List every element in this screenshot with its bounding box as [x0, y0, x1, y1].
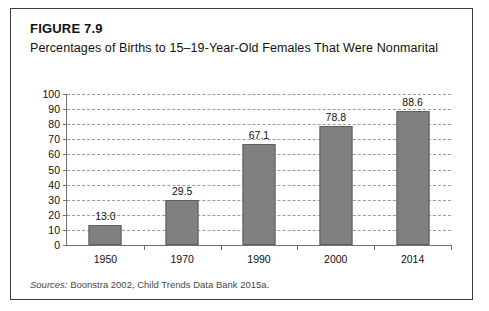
y-axis-label: 90 — [48, 103, 60, 115]
y-axis-label: 70 — [48, 133, 60, 145]
y-axis-label: 60 — [48, 148, 60, 160]
plot-area: 010203040506070809010013.0195029.5197067… — [66, 94, 451, 246]
bar-group: 88.62014 — [374, 94, 451, 245]
bar-group: 78.82000 — [297, 94, 374, 245]
x-axis-label: 2014 — [401, 253, 424, 265]
figure-title: Percentages of Births to 15–19-Year-Old … — [30, 40, 454, 57]
bar-group: 13.01950 — [67, 94, 144, 245]
bar-value-label: 88.6 — [402, 96, 422, 108]
bar-value-label: 13.0 — [95, 210, 115, 222]
bar-chart: 010203040506070809010013.0195029.5197067… — [30, 87, 455, 272]
y-axis-label: 30 — [48, 194, 60, 206]
figure-container: FIGURE 7.9 Percentages of Births to 15–1… — [10, 8, 473, 300]
source-text: Boonstra 2002, Child Trends Data Bank 20… — [68, 279, 270, 290]
x-axis-label: 2000 — [324, 253, 347, 265]
bar-value-label: 29.5 — [172, 185, 192, 197]
bar-value-label: 78.8 — [326, 111, 346, 123]
x-axis-label: 1990 — [247, 253, 270, 265]
x-axis-tick — [297, 245, 298, 250]
y-axis-label: 20 — [48, 209, 60, 221]
bar — [242, 144, 275, 245]
figure-number: FIGURE 7.9 — [30, 21, 454, 37]
y-axis-label: 80 — [48, 118, 60, 130]
figure-header: FIGURE 7.9 Percentages of Births to 15–1… — [30, 21, 454, 57]
x-axis-tick — [221, 245, 222, 250]
y-axis-label: 50 — [48, 164, 60, 176]
source-label: Sources: — [30, 279, 68, 290]
y-axis-label: 10 — [48, 224, 60, 236]
y-axis-label: 40 — [48, 179, 60, 191]
bar-value-label: 67.1 — [249, 129, 269, 141]
y-axis-label: 0 — [54, 239, 60, 251]
y-axis-label: 100 — [42, 88, 60, 100]
bar-group: 67.11990 — [221, 94, 298, 245]
x-axis-tick — [374, 245, 375, 250]
x-axis-tick — [451, 245, 452, 250]
x-axis-label: 1970 — [171, 253, 194, 265]
bar — [396, 111, 429, 245]
x-axis-tick — [144, 245, 145, 250]
bar-group: 29.51970 — [144, 94, 221, 245]
bar — [89, 225, 122, 245]
x-axis-label: 1950 — [94, 253, 117, 265]
source-note: Sources: Boonstra 2002, Child Trends Dat… — [30, 279, 269, 290]
y-axis-tick — [63, 245, 67, 246]
bar — [319, 126, 352, 245]
bar — [166, 200, 199, 245]
